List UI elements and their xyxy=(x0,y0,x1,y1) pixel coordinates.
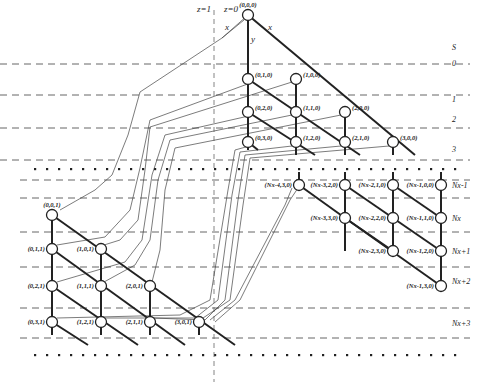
row-label-nx-1: Nx-1 xyxy=(451,181,468,190)
ellipsis-dot xyxy=(346,168,348,170)
ellipsis-dot xyxy=(334,168,336,170)
state-node-label: (0,2,0) xyxy=(255,104,272,112)
state-node-label: (Nx-2,1,0) xyxy=(359,181,386,189)
state-node-label: (1,0,1) xyxy=(77,245,94,253)
ellipsis-dot xyxy=(70,168,72,170)
ellipsis-dot xyxy=(190,168,192,170)
row-label-nx+3: Nx+3 xyxy=(451,319,470,328)
ellipsis-dot xyxy=(82,354,84,356)
state-lattice-diagram: (0,0,0)(0,1,0)(1,0,0)(0,2,0)(1,1,0)(2,0,… xyxy=(0,0,484,382)
ellipsis-dot xyxy=(214,168,216,170)
state-node xyxy=(96,317,107,328)
state-node-label: (0,2,1) xyxy=(28,282,45,290)
ellipsis-dot xyxy=(442,354,444,356)
ellipsis-dot xyxy=(394,168,396,170)
row-label-nx+1: Nx+1 xyxy=(451,247,470,256)
ellipsis-dot xyxy=(238,354,240,356)
ellipsis-dot xyxy=(178,168,180,170)
ellipsis-dot xyxy=(370,354,372,356)
ellipsis-dot xyxy=(274,354,276,356)
state-node xyxy=(340,107,351,118)
state-node-label: (1,1,0) xyxy=(303,104,320,112)
row-label-1: 1 xyxy=(452,95,456,104)
state-node-label: (0,1,1) xyxy=(28,245,45,253)
ellipsis-dot xyxy=(202,354,204,356)
ellipsis-dot xyxy=(250,168,252,170)
ellipsis-dot xyxy=(394,354,396,356)
state-node-label: (Nx-1,0,0) xyxy=(407,181,434,189)
ellipsis-dot xyxy=(46,354,48,356)
ellipsis-dot xyxy=(370,168,372,170)
state-node-label: (0,3,1) xyxy=(28,318,45,326)
edge-label-z: x xyxy=(224,22,229,32)
ellipsis-dot xyxy=(154,354,156,356)
ellipsis-dot xyxy=(166,168,168,170)
ellipsis-dot xyxy=(142,354,144,356)
ellipsis-dot xyxy=(106,354,108,356)
ellipsis-dot xyxy=(322,354,324,356)
ellipsis-dot xyxy=(226,354,228,356)
state-node-label: (0,0,1) xyxy=(43,201,60,209)
layer-label-z1: z=1 xyxy=(196,4,211,14)
ellipsis-dot xyxy=(358,168,360,170)
state-node xyxy=(243,10,254,21)
ellipsis-dot xyxy=(70,354,72,356)
ellipsis-dot xyxy=(406,354,408,356)
state-node xyxy=(96,281,107,292)
state-node xyxy=(47,317,58,328)
ellipsis-dot xyxy=(202,168,204,170)
state-node-label: (2,0,0) xyxy=(352,104,369,112)
state-node-label: (Nx-4,3,0) xyxy=(265,181,292,189)
ellipsis-dot xyxy=(94,354,96,356)
state-node xyxy=(340,213,351,224)
state-node xyxy=(291,74,302,85)
row-label-nx+2: Nx+2 xyxy=(451,277,470,286)
state-node xyxy=(96,244,107,255)
ellipsis-dot xyxy=(130,354,132,356)
state-node-label: (Nx-3,3,0) xyxy=(311,214,338,222)
ellipsis-dot xyxy=(454,354,456,356)
ellipsis-dot xyxy=(274,168,276,170)
state-node xyxy=(436,281,447,292)
state-node xyxy=(388,180,399,191)
ellipsis-dot xyxy=(298,168,300,170)
state-node-label: (0,1,0) xyxy=(255,71,272,79)
ellipsis-dot xyxy=(286,168,288,170)
ellipsis-dot xyxy=(34,354,36,356)
state-node-label: (Nx-2,3,0) xyxy=(359,247,386,255)
state-node xyxy=(243,137,254,148)
ellipsis-dot xyxy=(382,354,384,356)
state-node-label: (0,0,0) xyxy=(239,1,256,9)
state-node xyxy=(47,210,58,221)
ellipsis-dot xyxy=(46,168,48,170)
ellipsis-dot xyxy=(430,354,432,356)
state-node xyxy=(294,180,305,191)
ellipsis-dot xyxy=(310,354,312,356)
ellipsis-dot xyxy=(106,168,108,170)
state-node-label: (Nx-1,2,0) xyxy=(407,247,434,255)
row-label-0: 0 xyxy=(452,59,456,68)
state-node-label: (2,0,1) xyxy=(126,282,143,290)
state-node xyxy=(436,213,447,224)
state-node-label: (Nx-1,1,0) xyxy=(407,214,434,222)
ellipsis-dot xyxy=(298,354,300,356)
state-node-label: (Nx-1,3,0) xyxy=(407,282,434,290)
ellipsis-dot xyxy=(178,354,180,356)
ellipsis-dot xyxy=(286,354,288,356)
layer-label-z0: z=0 xyxy=(223,4,239,14)
ellipsis-dot xyxy=(430,168,432,170)
ellipsis-dot xyxy=(130,168,132,170)
state-node xyxy=(47,244,58,255)
state-node-label: (Nx-2,2,0) xyxy=(359,214,386,222)
state-node-label: (3,0,1) xyxy=(175,318,192,326)
row-separators xyxy=(0,64,470,338)
row-label-nx: Nx xyxy=(451,214,461,223)
ellipsis-dot xyxy=(238,168,240,170)
state-node xyxy=(340,137,351,148)
state-node xyxy=(145,281,156,292)
ellipsis-dot xyxy=(322,168,324,170)
state-node-label: (1,0,0) xyxy=(303,71,320,79)
state-node xyxy=(436,180,447,191)
ellipsis-dot xyxy=(454,168,456,170)
row-label-2: 2 xyxy=(452,115,456,124)
